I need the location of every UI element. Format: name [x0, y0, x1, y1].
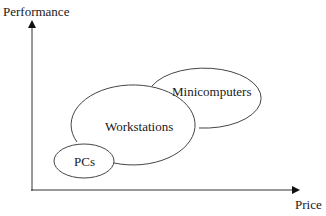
- x-axis-label: Price: [295, 198, 322, 211]
- region-label-workstations: Workstations: [105, 120, 173, 133]
- diagram-canvas: [0, 0, 326, 216]
- region-label-pcs: PCs: [74, 155, 95, 168]
- region-label-minicomputers: Minicomputers: [172, 85, 251, 98]
- y-axis-label: Performance: [3, 5, 69, 18]
